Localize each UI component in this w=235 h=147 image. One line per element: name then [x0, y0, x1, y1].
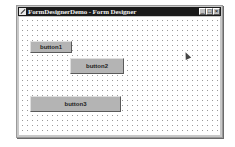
design-surface[interactable]: button1 button2 button3	[19, 17, 220, 135]
app-icon[interactable]	[19, 8, 26, 15]
button1[interactable]: button1	[30, 41, 72, 53]
button2[interactable]: button2	[70, 58, 124, 74]
title-bar[interactable]: FormDesignerDemo - Form Designer _ □ ×	[18, 7, 221, 16]
minimize-button[interactable]: _	[199, 8, 206, 15]
maximize-button[interactable]: □	[206, 8, 213, 15]
window-controls: _ □ ×	[199, 8, 220, 15]
form-designer-window: FormDesignerDemo - Form Designer _ □ × b…	[16, 5, 223, 138]
button3[interactable]: button3	[30, 96, 121, 112]
window-title: FormDesignerDemo - Form Designer	[28, 8, 136, 16]
close-button[interactable]: ×	[213, 8, 220, 15]
